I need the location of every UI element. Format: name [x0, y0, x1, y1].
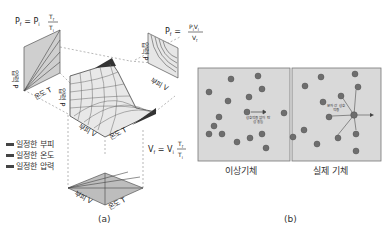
real-gas-title: 실제 기체 [313, 164, 348, 177]
ideal-gas-box [198, 68, 290, 161]
real-gas-annotation: 분자 간 상호작용 [327, 104, 345, 112]
legend-swatch [6, 143, 14, 146]
svg-text:Ti: Ti [48, 24, 54, 33]
pressure-label-right: 압력 P [141, 42, 149, 60]
ideal-gas-annotation: 상호작용 없이 탄성 충돌 [246, 116, 270, 124]
real-gas-box [290, 68, 381, 161]
eq-pt: Pf = Pi [15, 17, 40, 27]
legend-item-constant-temperature: 일정한 온도 [6, 150, 54, 161]
svg-text:Vf: Vf [192, 34, 198, 43]
svg-text:Ti: Ti [177, 151, 183, 160]
legend-swatch [6, 154, 14, 157]
legend: 일정한 부피 일정한 온도 일정한 압력 [6, 139, 54, 172]
volume-label-right: 부피 V [149, 76, 170, 93]
temperature-label-left: 온도 T [33, 86, 54, 102]
eq-vt: Vf = Vi [148, 145, 174, 155]
svg-text:PiVi: PiVi [189, 23, 199, 32]
legend-item-constant-volume: 일정한 부피 [6, 139, 54, 150]
svg-text:Tf: Tf [177, 140, 184, 149]
diagram-canvas: Pf = Pi Tf Ti Pf = PiVi Vf Vf = Vi Tf Ti… [0, 0, 385, 235]
pv-plane [148, 33, 178, 78]
pressure-label-surface: 압력 P [58, 88, 66, 106]
legend-item-constant-pressure: 일정한 압력 [6, 161, 54, 172]
panel-a-caption: (a) [98, 214, 111, 224]
legend-swatch [6, 165, 14, 168]
pressure-label-left: 압력 P [11, 70, 19, 88]
pt-plane [24, 30, 60, 91]
svg-text:Tf: Tf [48, 13, 55, 22]
panel-b-caption: (b) [284, 214, 297, 224]
ideal-gas-title: 이상기체 [225, 164, 257, 177]
eq-pv: Pf = [165, 27, 181, 37]
